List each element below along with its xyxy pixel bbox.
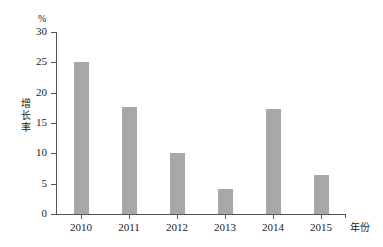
bar — [122, 107, 137, 214]
y-axis-unit-label: % — [38, 13, 46, 24]
y-tick-label: 20 — [21, 87, 47, 98]
y-tick-mark — [51, 153, 56, 154]
x-tick-mark — [321, 215, 322, 219]
y-tick-mark — [51, 123, 56, 124]
plot-area — [57, 32, 345, 214]
y-tick-label: 30 — [21, 26, 47, 37]
x-tick-mark — [273, 215, 274, 219]
bar-chart: % 增长率 051015202530 201020112012201320142… — [0, 0, 383, 247]
bar — [170, 153, 185, 214]
x-axis-end-tick — [345, 214, 346, 218]
y-tick-mark — [51, 32, 56, 33]
y-tick-mark — [51, 93, 56, 94]
y-axis-title: 增长率 — [19, 98, 32, 134]
x-tick-label: 2012 — [153, 221, 201, 234]
x-axis-title: 年份 — [350, 221, 370, 234]
bar — [74, 62, 89, 214]
y-tick-label: 10 — [21, 147, 47, 158]
x-tick-mark — [225, 215, 226, 219]
x-tick-label: 2010 — [57, 221, 105, 234]
y-tick-mark — [51, 62, 56, 63]
y-tick-label: 15 — [21, 117, 47, 128]
x-tick-mark — [177, 215, 178, 219]
x-tick-mark — [129, 215, 130, 219]
bar — [266, 109, 281, 214]
y-tick-label: 5 — [21, 178, 47, 189]
y-tick-mark — [51, 184, 56, 185]
y-tick-mark — [51, 214, 56, 215]
x-tick-label: 2015 — [297, 221, 345, 234]
x-tick-label: 2011 — [105, 221, 153, 234]
bar — [314, 175, 329, 214]
y-tick-label: 0 — [21, 208, 47, 219]
x-tick-label: 2013 — [201, 221, 249, 234]
x-tick-label: 2014 — [249, 221, 297, 234]
bar — [218, 189, 233, 214]
x-tick-mark — [81, 215, 82, 219]
x-axis-line — [56, 214, 346, 215]
y-tick-label: 25 — [21, 56, 47, 67]
